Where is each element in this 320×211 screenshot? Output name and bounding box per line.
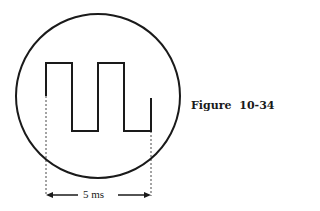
figure-caption: Figure 10-34 xyxy=(191,99,274,112)
square-wave-trace xyxy=(46,63,151,131)
dimension-label: 5 ms xyxy=(83,188,104,200)
arrowhead-right-icon xyxy=(144,192,151,198)
arrowhead-left-icon xyxy=(46,192,53,198)
